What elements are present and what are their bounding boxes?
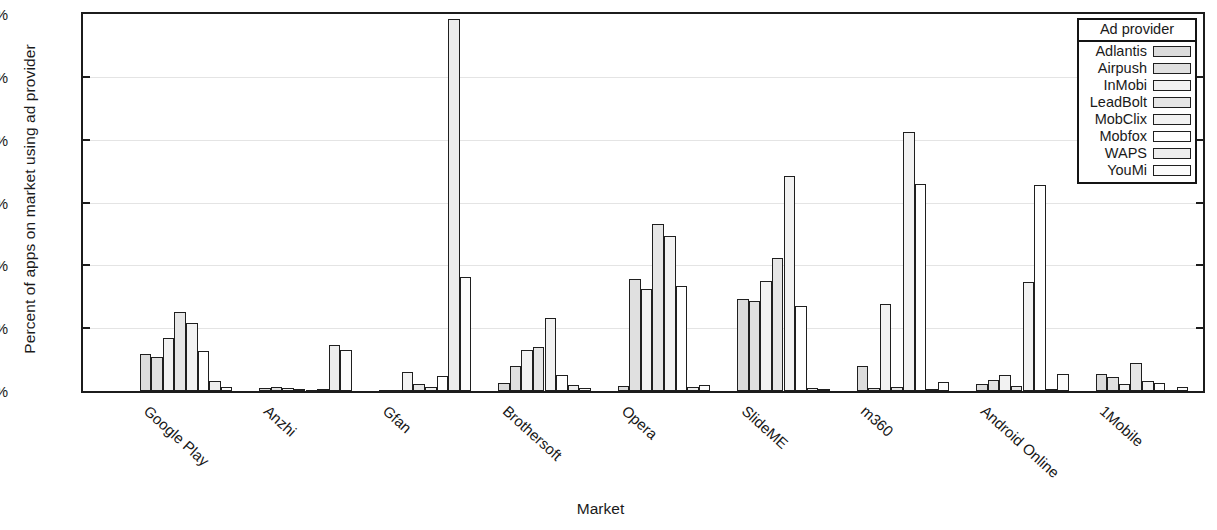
bar — [1154, 383, 1166, 391]
bar — [340, 350, 352, 391]
legend-item-label: InMobi — [1103, 78, 1147, 93]
bar — [760, 281, 772, 391]
bar — [140, 354, 152, 391]
bar — [664, 236, 676, 391]
y-axis-tick-mark — [81, 327, 90, 329]
legend-item-label: LeadBolt — [1090, 95, 1147, 110]
bar — [151, 357, 163, 391]
legend-swatch — [1153, 165, 1191, 176]
bar — [976, 384, 988, 391]
bar — [999, 375, 1011, 391]
bar — [437, 376, 449, 391]
bar — [903, 132, 915, 391]
y-axis-tick-label: 12% — [0, 6, 8, 23]
bar — [699, 385, 711, 391]
bar — [1034, 185, 1046, 391]
y-axis-tick-mark-right — [1196, 202, 1205, 204]
legend-swatch — [1153, 131, 1191, 142]
y-axis-tick-mark-right — [1196, 327, 1205, 329]
gridline — [83, 77, 1203, 78]
bar — [891, 387, 903, 391]
legend-entries: AdlantisAirpushInMobiLeadBoltMobClixMobf… — [1079, 42, 1195, 182]
legend-item: Adlantis — [1083, 43, 1191, 60]
legend-item-label: YouMi — [1107, 163, 1147, 178]
bar — [1119, 384, 1131, 391]
legend-item: InMobi — [1083, 77, 1191, 94]
bar — [749, 301, 761, 391]
bar — [1096, 374, 1108, 391]
bar — [402, 372, 414, 391]
legend-swatch — [1153, 80, 1191, 91]
legend-swatch — [1153, 148, 1191, 159]
bar — [1142, 381, 1154, 391]
bar — [1177, 387, 1189, 391]
legend-item-label: Airpush — [1098, 61, 1147, 76]
bar — [641, 289, 653, 391]
x-axis-category-label: 1Mobile — [1097, 402, 1147, 450]
bar — [413, 384, 425, 391]
y-axis-tick-label: 8% — [0, 131, 8, 148]
y-axis-tick-mark — [81, 202, 90, 204]
legend-item: WAPS — [1083, 145, 1191, 162]
y-axis-title: Percent of apps on market using ad provi… — [21, 19, 39, 379]
bar — [282, 388, 294, 391]
x-axis-category-label: Google Play — [141, 402, 213, 469]
bar — [379, 390, 391, 392]
bar — [425, 387, 437, 391]
bar — [556, 375, 568, 391]
y-axis-tick-label: 10% — [0, 68, 8, 85]
bar — [1011, 386, 1023, 391]
x-axis-category-label: Opera — [619, 402, 661, 443]
x-axis-category-label: m360 — [858, 402, 897, 440]
bar — [1023, 282, 1035, 391]
bar — [629, 279, 641, 391]
bar — [652, 224, 664, 391]
bar — [1046, 389, 1058, 391]
bar — [198, 351, 210, 391]
bar — [579, 388, 591, 391]
y-axis-tick-mark-right — [1196, 76, 1205, 78]
bar-chart-figure: Percent of apps on market using ad provi… — [0, 0, 1217, 530]
legend-item-label: Adlantis — [1095, 44, 1147, 59]
bar — [1165, 390, 1177, 392]
legend-item: MobClix — [1083, 111, 1191, 128]
bar — [448, 19, 460, 391]
bar — [784, 176, 796, 391]
bar — [390, 390, 402, 392]
bar — [306, 390, 318, 392]
legend-swatch — [1153, 46, 1191, 57]
bar — [533, 347, 545, 391]
bar — [676, 286, 688, 391]
legend-swatch — [1153, 114, 1191, 125]
x-axis-title: Market — [0, 500, 1217, 518]
legend-item: Mobfox — [1083, 128, 1191, 145]
bar — [317, 389, 329, 391]
bar — [795, 306, 807, 391]
bar — [807, 388, 819, 391]
y-axis-tick-label: 4% — [0, 257, 8, 274]
legend-item: Airpush — [1083, 60, 1191, 77]
legend-swatch — [1153, 63, 1191, 74]
bar — [618, 386, 630, 391]
bar — [737, 299, 749, 391]
gridline — [83, 140, 1203, 141]
y-axis-tick-mark-right — [1196, 264, 1205, 266]
bar — [915, 184, 927, 391]
bar — [498, 383, 510, 391]
y-axis-tick-label: 6% — [0, 194, 8, 211]
legend-item: LeadBolt — [1083, 94, 1191, 111]
legend-item-label: WAPS — [1105, 146, 1147, 161]
bar — [1057, 374, 1069, 391]
bar — [329, 345, 341, 391]
y-axis-tick-label: 0% — [0, 383, 8, 400]
legend-title: Ad provider — [1079, 20, 1195, 42]
bar — [1107, 377, 1119, 391]
legend-item-label: MobClix — [1095, 112, 1147, 127]
bar — [687, 387, 699, 391]
legend-swatch — [1153, 97, 1191, 108]
bar — [988, 380, 1000, 391]
y-axis-tick-mark — [81, 76, 90, 78]
legend-item: YouMi — [1083, 162, 1191, 179]
x-axis-category-label: SlideME — [738, 402, 791, 452]
bar — [938, 382, 950, 391]
